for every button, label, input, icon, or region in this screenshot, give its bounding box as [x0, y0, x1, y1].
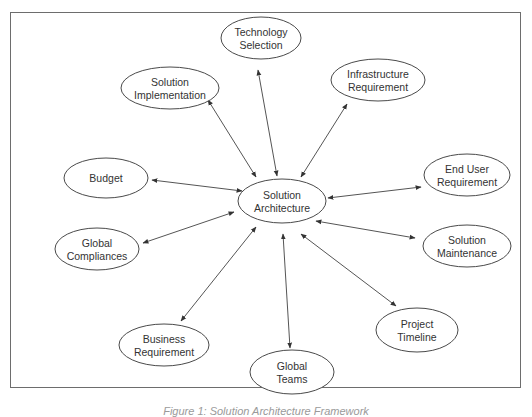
edge-business-requirement: [181, 227, 256, 321]
node-label: Selection: [239, 39, 282, 51]
node-label: Budget: [89, 172, 122, 184]
node-label: Technology: [234, 26, 288, 38]
node-label: Solution: [151, 76, 189, 88]
node-budget: Budget: [64, 158, 148, 198]
node-label: Implementation: [134, 89, 206, 101]
figure-caption: Figure 1: Solution Architecture Framewor…: [0, 405, 532, 417]
node-label: Maintenance: [437, 247, 497, 259]
node-solution-maintenance: SolutionMaintenance: [423, 225, 511, 267]
node-label: Requirement: [134, 346, 194, 358]
node-label: End User: [445, 163, 489, 175]
node-label: Global: [82, 237, 112, 249]
edge-project-timeline: [301, 234, 396, 306]
edge-global-compliances: [143, 212, 234, 243]
node-global-compliances: GlobalCompliances: [55, 228, 139, 270]
edge-technology-selection: [258, 70, 277, 176]
node-solution-implementation: SolutionImplementation: [121, 67, 219, 109]
node-label: Compliances: [67, 250, 128, 262]
node-project-timeline: ProjectTimeline: [376, 308, 458, 352]
node-label: Timeline: [397, 331, 436, 343]
node-label: Global: [277, 360, 307, 372]
edge-solution-maintenance: [316, 221, 415, 238]
node-center: SolutionArchitecture: [238, 179, 326, 223]
edge-global-teams: [283, 234, 290, 348]
node-label: Solution: [263, 189, 301, 201]
node-label: Architecture: [254, 202, 310, 214]
node-technology-selection: TechnologySelection: [221, 17, 301, 59]
nodes: TechnologySelectionSolutionImplementatio…: [55, 17, 511, 394]
node-business-requirement: BusinessRequirement: [119, 324, 209, 366]
node-label: Infrastructure: [347, 68, 409, 80]
node-end-user-requirement: End UserRequirement: [424, 154, 510, 196]
node-label: Requirement: [437, 176, 497, 188]
node-label: Project: [401, 318, 434, 330]
node-label: Solution: [448, 234, 486, 246]
edge-infrastructure-requirement: [301, 104, 347, 177]
node-label: Requirement: [348, 81, 408, 93]
edge-end-user-requirement: [328, 187, 421, 198]
edge-budget: [152, 180, 242, 191]
node-label: Teams: [277, 373, 308, 385]
edge-solution-implementation: [208, 100, 256, 177]
node-label: Business: [143, 333, 186, 345]
node-global-teams: GlobalTeams: [250, 350, 334, 394]
node-infrastructure-requirement: InfrastructureRequirement: [331, 59, 425, 101]
